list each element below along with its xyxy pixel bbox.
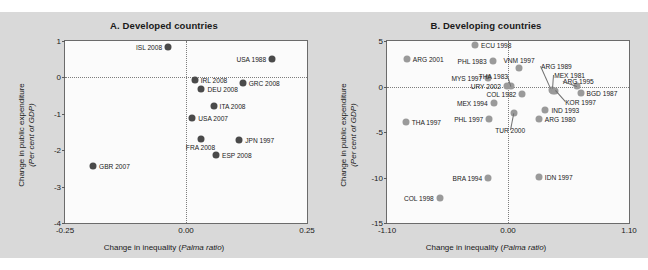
panel-a-x-axis-label-end: ) (222, 243, 225, 252)
panel-b-plot-area: 50-5-10-15-1.100.001.10ECU 1998ARG 2001P… (386, 40, 630, 224)
x-axis-tick-label: -0.25 (56, 226, 74, 235)
data-point (436, 194, 443, 201)
data-point-label: ECU 1998 (481, 41, 511, 48)
data-point-label: ITA 2008 (220, 102, 246, 109)
data-point-label: KOR 1997 (565, 99, 596, 106)
panel-b-x-axis-label-italic: Palma ratio (503, 243, 543, 252)
y-axis-tick-label: -2 (54, 146, 61, 155)
y-axis-tick-mark (384, 178, 387, 179)
y-axis-tick-mark (62, 187, 65, 188)
panel-b-title: B. Developing countries (330, 20, 642, 31)
data-point-label: IDN 1997 (545, 174, 573, 181)
data-point-label: PHL 1997 (454, 116, 483, 123)
data-point (197, 135, 204, 142)
data-point-label: JPN 1997 (245, 137, 274, 144)
y-axis-tick-label: 1 (57, 37, 61, 46)
reference-line-vertical (186, 41, 187, 223)
panel-b-x-axis-label-end: ) (544, 243, 547, 252)
y-axis-tick-label: 0 (379, 82, 383, 91)
data-point-label: IND 1993 (551, 107, 579, 114)
data-point-label: BGD 1987 (587, 90, 618, 97)
panel-developed-countries: A. Developed countries Change in public … (8, 12, 320, 258)
data-point (90, 163, 97, 170)
panel-a-y-axis-label: Change in public expenditure (Per cent o… (17, 60, 37, 210)
data-point-label: USA 1988 (236, 56, 266, 63)
panel-b-x-axis-label-main: Change in inequality ( (426, 243, 503, 252)
y-axis-tick-mark (62, 150, 65, 151)
y-axis-tick-mark (384, 132, 387, 133)
data-point-label: MYS 1997 (451, 74, 482, 81)
data-point-label: USA 2007 (198, 114, 228, 121)
data-point-label: ARG 1989 (541, 62, 572, 69)
data-point (213, 152, 220, 159)
figure-canvas: A. Developed countries Change in public … (0, 12, 648, 258)
y-axis-tick-mark (62, 114, 65, 115)
data-point (472, 41, 479, 48)
data-point (191, 76, 198, 83)
data-point (535, 115, 542, 122)
data-point-label: COL 1982 (486, 91, 516, 98)
data-point (535, 174, 542, 181)
y-axis-tick-mark (62, 41, 65, 42)
data-point (519, 91, 526, 98)
data-point-label: URY 2002 (471, 83, 501, 90)
data-point (239, 79, 246, 86)
data-point (210, 102, 217, 109)
y-axis-tick-mark (62, 223, 65, 224)
data-point-label: THA 1983 (479, 72, 508, 79)
panel-b-y-axis-label: Change in public expenditure (Per cent o… (339, 60, 359, 210)
data-point (486, 116, 493, 123)
data-point-label: ARG 1980 (545, 115, 576, 122)
data-point-label: VNM 1997 (503, 56, 534, 63)
data-point (485, 174, 492, 181)
y-axis-tick-mark (384, 223, 387, 224)
data-point-label: PHL 1983 (458, 58, 487, 65)
data-point-label: GRC 2008 (249, 79, 280, 86)
data-point (542, 107, 549, 114)
reference-line-horizontal (65, 77, 307, 78)
data-point-label: MEX 1994 (457, 100, 488, 107)
data-point-label: BRA 1994 (452, 174, 482, 181)
data-point-label: COL 1998 (404, 194, 434, 201)
panel-b-x-axis-label: Change in inequality (Palma ratio) (330, 243, 642, 252)
data-point (403, 55, 410, 62)
panel-developing-countries: B. Developing countries Change in public… (330, 12, 642, 258)
data-point-label: GBR 2007 (99, 163, 130, 170)
panel-a-y-axis-label-line2: (Per cent of GDP) (27, 103, 36, 167)
data-point (269, 56, 276, 63)
panel-b-y-axis-label-line2: (Per cent of GDP) (349, 103, 358, 167)
y-axis-tick-mark (384, 87, 387, 88)
data-point (490, 100, 497, 107)
x-axis-tick-label: 1.10 (621, 226, 637, 235)
panel-a-x-axis-label-italic: Palma ratio (181, 243, 221, 252)
data-point-label: THA 1997 (412, 119, 441, 126)
data-point-label: ISL 2008 (136, 43, 162, 50)
data-point-label: IRL 2008 (201, 76, 228, 83)
y-axis-tick-label: 5 (379, 37, 383, 46)
data-point (189, 114, 196, 121)
y-axis-tick-mark (384, 41, 387, 42)
y-axis-tick-mark (62, 77, 65, 78)
panel-a-x-axis-label: Change in inequality (Palma ratio) (8, 243, 320, 252)
data-point (489, 58, 496, 65)
y-axis-tick-label: -5 (376, 128, 383, 137)
data-point-label: DEU 2008 (207, 86, 237, 93)
data-point (236, 137, 243, 144)
x-axis-tick-label: -1.10 (378, 226, 396, 235)
label-leader-line (555, 91, 566, 103)
y-axis-tick-label: -3 (54, 182, 61, 191)
y-axis-tick-label: -10 (371, 173, 383, 182)
data-point-label: ARG 2001 (413, 55, 444, 62)
data-point (402, 119, 409, 126)
data-point (198, 86, 205, 93)
x-axis-tick-label: 0.25 (299, 226, 315, 235)
panel-a-y-axis-label-line1: Change in public expenditure (17, 83, 26, 187)
data-point (577, 90, 584, 97)
panel-a-x-axis-label-main: Change in inequality ( (104, 243, 181, 252)
y-axis-tick-label: 0 (57, 73, 61, 82)
y-axis-tick-label: -1 (54, 109, 61, 118)
x-axis-tick-label: 0.00 (178, 226, 194, 235)
data-point-label: ESP 2008 (222, 152, 252, 159)
data-point-label: FRA 2008 (186, 143, 215, 150)
data-point (165, 43, 172, 50)
